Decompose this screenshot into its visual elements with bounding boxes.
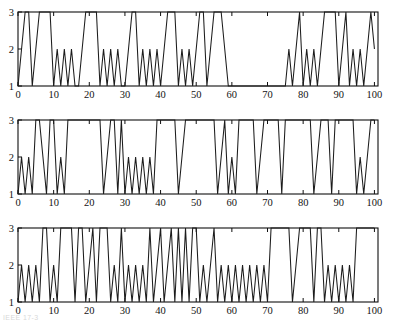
y-tick-label: 3 — [9, 115, 14, 126]
plot-panel-2: 0102030405060708090100123 — [0, 108, 395, 213]
x-tick-label: 100 — [367, 89, 383, 100]
footer-artifact-text: IEEE 17-3 — [3, 314, 39, 321]
x-tick-label: 90 — [334, 89, 345, 100]
x-tick-label: 30 — [120, 89, 131, 100]
x-tick-label: 30 — [120, 197, 131, 208]
x-tick-label: 0 — [15, 89, 20, 100]
x-tick-label: 20 — [84, 197, 95, 208]
x-tick-label: 30 — [120, 305, 131, 316]
series-line — [18, 12, 374, 86]
plot-frame — [18, 12, 378, 86]
x-tick-label: 40 — [155, 197, 166, 208]
x-tick-label: 70 — [262, 305, 273, 316]
x-tick-label: 50 — [191, 89, 202, 100]
x-tick-label: 80 — [298, 305, 309, 316]
state-sequence-chart: 0102030405060708090100123 — [0, 216, 395, 321]
figure-container: 0102030405060708090100123 01020304050607… — [0, 0, 395, 328]
plot-panel-3: 0102030405060708090100123 — [0, 216, 395, 321]
x-tick-label: 90 — [334, 197, 345, 208]
y-tick-label: 3 — [9, 7, 14, 18]
series-line — [18, 228, 374, 302]
y-tick-label: 3 — [9, 223, 14, 234]
y-tick-label: 1 — [9, 81, 14, 92]
state-sequence-chart: 0102030405060708090100123 — [0, 108, 395, 213]
y-tick-label: 2 — [9, 260, 14, 271]
x-tick-label: 40 — [155, 89, 166, 100]
x-tick-label: 10 — [48, 89, 59, 100]
y-tick-label: 2 — [9, 44, 14, 55]
x-tick-label: 50 — [191, 305, 202, 316]
x-tick-label: 80 — [298, 89, 309, 100]
y-tick-label: 1 — [9, 297, 14, 308]
y-tick-label: 1 — [9, 189, 14, 200]
plot-panel-1: 0102030405060708090100123 — [0, 0, 395, 105]
x-tick-label: 40 — [155, 305, 166, 316]
x-tick-label: 90 — [334, 305, 345, 316]
plot-frame — [18, 120, 378, 194]
x-tick-label: 10 — [48, 305, 59, 316]
x-tick-label: 100 — [367, 197, 383, 208]
state-sequence-chart: 0102030405060708090100123 — [0, 0, 395, 105]
x-tick-label: 50 — [191, 197, 202, 208]
x-tick-label: 100 — [367, 305, 383, 316]
x-tick-label: 10 — [48, 197, 59, 208]
x-tick-label: 60 — [227, 89, 238, 100]
x-tick-label: 20 — [84, 89, 95, 100]
x-tick-label: 20 — [84, 305, 95, 316]
x-tick-label: 80 — [298, 197, 309, 208]
x-tick-label: 60 — [227, 197, 238, 208]
x-tick-label: 70 — [262, 197, 273, 208]
series-line — [18, 120, 374, 194]
y-tick-label: 2 — [9, 152, 14, 163]
x-tick-label: 70 — [262, 89, 273, 100]
x-tick-label: 0 — [15, 197, 20, 208]
x-tick-label: 60 — [227, 305, 238, 316]
